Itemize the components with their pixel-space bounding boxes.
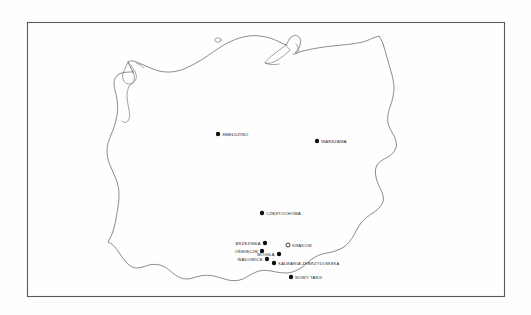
city-marker: BRZEZINKA (236, 241, 268, 246)
poland-outline-map: SMEŁDZINOWARSZAWACZĘSTOCHOWABRZEZINKAKRA… (0, 0, 531, 315)
lake-mark (215, 38, 221, 42)
city-marker: KALWARIA ZEBRZYDOWSKA (272, 261, 340, 266)
city-label: KRAKÓW (292, 243, 312, 248)
city-marker: WADOWICE (238, 257, 270, 262)
city-label: BRZEZINKA (236, 241, 261, 246)
map-figure: SMEŁDZINOWARSZAWACZĘSTOCHOWABRZEZINKAKRA… (0, 0, 531, 315)
city-marker: KRAKÓW (286, 243, 312, 248)
city-label: SMEŁDZINO (222, 132, 248, 137)
city-marker: WARSZAWA (315, 139, 347, 144)
city-dot-icon (263, 241, 267, 245)
city-marker: CZĘSTOCHOWA (260, 211, 301, 216)
city-dot-icon (315, 139, 319, 143)
city-label: WADOWICE (238, 257, 263, 262)
city-dot-icon (286, 243, 290, 247)
city-label: KALWARIA ZEBRZYDOWSKA (278, 261, 339, 266)
city-marker: NOWY TARG (289, 275, 322, 280)
city-dot-icon (265, 257, 269, 261)
city-label: WARSZAWA (321, 139, 347, 144)
city-dot-icon (216, 132, 220, 136)
city-dot-icon (289, 275, 293, 279)
city-markers-layer: SMEŁDZINOWARSZAWACZĘSTOCHOWABRZEZINKAKRA… (216, 132, 347, 280)
city-dot-icon (272, 261, 276, 265)
hel-peninsula (265, 45, 290, 63)
city-dot-icon (260, 211, 264, 215)
city-label: CZĘSTOCHOWA (266, 211, 301, 216)
city-dot-icon (277, 252, 281, 256)
city-label: NOWY TARG (295, 275, 322, 280)
city-label: OŚWIĘCIM (235, 249, 258, 254)
city-marker: SMEŁDZINO (216, 132, 249, 137)
